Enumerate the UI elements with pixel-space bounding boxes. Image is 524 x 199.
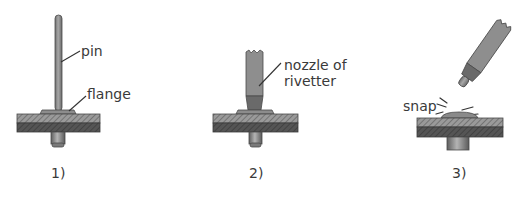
rivetter-nozzle: [246, 50, 263, 96]
label-pin: pin: [81, 43, 103, 59]
panel-3-pin-snapped: [417, 18, 512, 150]
label-snap: snap: [403, 98, 437, 114]
flange-leader: [69, 96, 86, 111]
pin-leader: [61, 51, 80, 62]
nozzle-tip: [246, 96, 263, 110]
label-flange: flange: [87, 86, 131, 102]
label-nozzle-line1: nozzle of: [284, 57, 347, 73]
upper-plate: [17, 114, 100, 123]
step-label-3: 3): [452, 165, 466, 181]
pin-shaft: [55, 15, 62, 111]
rivet-snap-head: [441, 112, 478, 118]
lower-plate: [17, 123, 100, 132]
flange: [40, 110, 76, 114]
step-label-1: 1): [51, 165, 65, 181]
panel-1-pin-inserted: [17, 15, 100, 147]
label-nozzle-line2: rivetter: [284, 73, 336, 89]
expanded-tail: [447, 137, 469, 150]
step-label-2: 2): [249, 165, 263, 181]
rivet-tail: [51, 132, 65, 144]
